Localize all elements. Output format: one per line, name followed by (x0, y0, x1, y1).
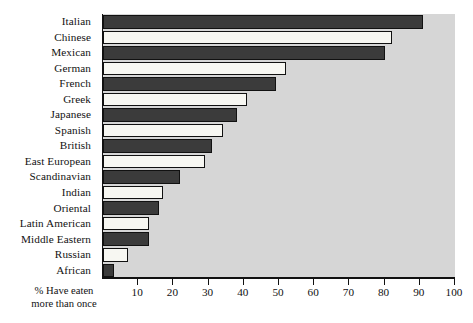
x-tick-label: 100 (446, 286, 463, 298)
category-label: Italian (0, 14, 96, 30)
bar-row (103, 61, 455, 77)
category-label: East European (0, 154, 96, 170)
bar (103, 15, 423, 29)
bar-row (103, 169, 455, 185)
bar (103, 155, 205, 169)
x-tick (278, 279, 279, 285)
bar (103, 248, 128, 262)
category-label: French (0, 76, 96, 92)
x-axis-caption-line-2: more than once (30, 298, 98, 311)
x-tick (172, 279, 173, 285)
category-label: Spanish (0, 123, 96, 139)
x-tick (384, 279, 385, 285)
bar (103, 46, 385, 60)
x-tick-label: 60 (308, 286, 319, 298)
category-label: Latin American (0, 216, 96, 232)
x-tick (454, 279, 455, 285)
bar (103, 62, 286, 76)
x-tick-label: 50 (272, 286, 283, 298)
bar-row (103, 30, 455, 46)
category-label: Scandinavian (0, 169, 96, 185)
bar (103, 232, 149, 246)
category-label: African (0, 263, 96, 279)
x-tick-label: 20 (167, 286, 178, 298)
bar-row (103, 14, 455, 30)
bar (103, 217, 149, 231)
bar-row (103, 92, 455, 108)
bar-row (103, 154, 455, 170)
category-label: British (0, 138, 96, 154)
category-label: Mexican (0, 45, 96, 61)
bar-series (103, 14, 455, 278)
x-tick-label: 80 (378, 286, 389, 298)
x-tick (137, 279, 138, 285)
bar (103, 170, 180, 184)
bar-row (103, 45, 455, 61)
x-tick (419, 279, 420, 285)
bar-chart: ItalianChineseMexicanGermanFrenchGreekJa… (0, 0, 473, 323)
bar-row (103, 123, 455, 139)
category-label-column: ItalianChineseMexicanGermanFrenchGreekJa… (0, 14, 96, 278)
category-label: Indian (0, 185, 96, 201)
bar-row (103, 138, 455, 154)
x-tick (243, 279, 244, 285)
x-tick (208, 279, 209, 285)
category-label: Japanese (0, 107, 96, 123)
bar-row (103, 263, 455, 279)
bar (103, 124, 223, 138)
x-axis-caption: % Have eaten more than once (30, 285, 98, 311)
bar (103, 31, 392, 45)
category-label: Oriental (0, 200, 96, 216)
bar (103, 139, 212, 153)
bar-row (103, 247, 455, 263)
x-tick-label: 30 (202, 286, 213, 298)
x-tick-label: 10 (132, 286, 143, 298)
x-tick-label: 70 (343, 286, 354, 298)
bar-row (103, 107, 455, 123)
x-axis-caption-line-1: % Have eaten (30, 285, 98, 298)
bar-row (103, 200, 455, 216)
bar (103, 186, 163, 200)
x-tick (313, 279, 314, 285)
bar-row (103, 231, 455, 247)
bar (103, 77, 276, 91)
x-tick-label: 40 (237, 286, 248, 298)
category-label: German (0, 61, 96, 77)
bar (103, 108, 237, 122)
category-label: Middle Eastern (0, 231, 96, 247)
plot-area (102, 14, 455, 278)
x-tick-label: 90 (413, 286, 424, 298)
bar (103, 201, 159, 215)
bar-row (103, 216, 455, 232)
category-label: Russian (0, 247, 96, 263)
x-tick (348, 279, 349, 285)
bar-row (103, 185, 455, 201)
category-label: Chinese (0, 30, 96, 46)
bar-row (103, 76, 455, 92)
bar (103, 264, 114, 278)
category-label: Greek (0, 92, 96, 108)
bar (103, 93, 247, 107)
